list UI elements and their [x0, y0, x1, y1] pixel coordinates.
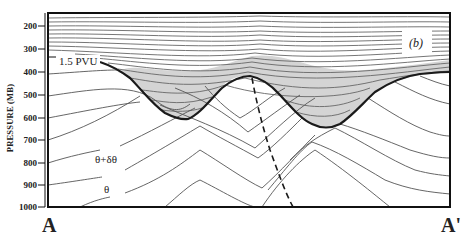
y-axis-ticks	[38, 26, 45, 207]
section-start-label: A	[42, 214, 57, 236]
y-tick-500: 500	[24, 90, 38, 100]
y-tick-1000: 1000	[19, 202, 38, 212]
plot-frame	[48, 13, 450, 207]
plot-area	[48, 16, 450, 207]
y-tick-400: 400	[24, 67, 38, 77]
isentrope-upper-label: θ+δθ	[95, 153, 117, 165]
cross-section-figure: 200 300 400 500 600 700 800 900 1000 PRE…	[0, 0, 465, 238]
section-end-label: A'	[441, 214, 461, 236]
y-tick-600: 600	[24, 113, 38, 123]
y-tick-300: 300	[24, 44, 38, 54]
isentrope-lower-label: θ	[104, 183, 109, 195]
y-axis-label: PRESSURE (MB)	[5, 84, 15, 152]
tropopause-label: 1.5 PVU	[59, 55, 98, 67]
trough-left-shading	[118, 55, 450, 127]
panel-label: (b)	[409, 36, 423, 50]
y-tick-900: 900	[24, 180, 38, 190]
y-tick-700: 700	[24, 135, 38, 145]
y-tick-200: 200	[24, 21, 38, 31]
y-tick-800: 800	[24, 158, 38, 168]
